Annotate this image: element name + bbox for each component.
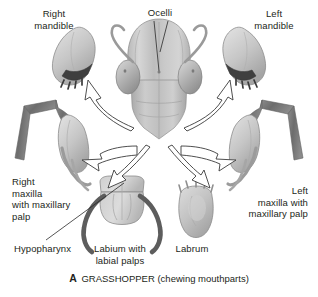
label-left-mandible: Left mandible xyxy=(245,8,303,31)
label-labrum: Labrum xyxy=(166,243,218,255)
mandible-left xyxy=(223,27,266,89)
caption-parenthetical: (chewing mouthparts) xyxy=(157,273,248,284)
label-ocelli: Ocelli xyxy=(137,7,183,19)
label-labium: Labium with labial palps xyxy=(84,243,156,266)
maxilla-left xyxy=(228,100,303,190)
compound-eye-right xyxy=(116,60,140,94)
caption-title: GRASSHOPPER xyxy=(81,273,154,284)
label-hypopharynx: Hypopharynx xyxy=(14,243,80,255)
mandible-right xyxy=(52,27,95,89)
label-right-maxilla: Right maxilla with maxillary palp xyxy=(12,176,92,222)
compound-eye-left xyxy=(178,60,202,94)
label-left-maxilla: Left maxilla with maxillary palp xyxy=(222,185,308,220)
ocellus-median xyxy=(158,71,161,74)
caption-letter: A xyxy=(69,272,77,284)
labium xyxy=(83,176,160,252)
figure-caption: A GRASSHOPPER (chewing mouthparts) xyxy=(0,272,318,284)
labrum xyxy=(179,180,213,238)
label-right-mandible: Right mandible xyxy=(25,8,83,31)
